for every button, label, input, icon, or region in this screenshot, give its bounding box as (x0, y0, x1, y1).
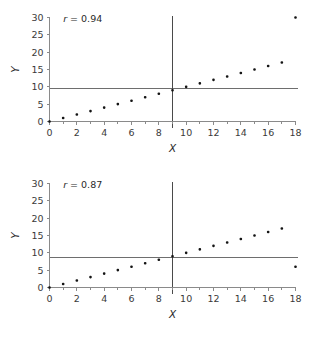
plot-canvas: 051015202530024681012141618XYr = 0.94 (0, 0, 310, 168)
data-point (240, 238, 243, 241)
y-tick-label: 0 (37, 116, 43, 127)
x-tick-label: 2 (74, 293, 80, 304)
correlation-label: r = 0.87 (63, 179, 102, 190)
y-tick-label: 25 (31, 195, 43, 206)
chart-panel-top: 051015202530024681012141618XYr = 0.94 (0, 0, 310, 168)
data-point (76, 279, 79, 282)
data-point (199, 248, 202, 251)
y-tick-label: 20 (31, 47, 43, 58)
data-point (117, 103, 120, 106)
data-point (48, 286, 51, 289)
plot-canvas: 051015202530024681012141618XYr = 0.87 (0, 166, 310, 334)
y-tick-label: 30 (31, 12, 43, 23)
data-point (212, 79, 215, 82)
y-tick-label: 10 (31, 81, 43, 92)
data-point (294, 16, 297, 19)
x-tick-label: 16 (262, 127, 274, 138)
data-point (226, 75, 229, 78)
data-point (76, 113, 79, 116)
data-point (103, 106, 106, 109)
y-tick-label: 0 (37, 282, 43, 293)
x-tick-label: 18 (289, 293, 301, 304)
data-point (185, 252, 188, 255)
data-point (117, 269, 120, 272)
x-axis-title: X (168, 308, 177, 320)
correlation-label: r = 0.94 (63, 13, 102, 24)
data-point (62, 283, 65, 286)
x-tick-label: 6 (128, 293, 134, 304)
y-tick-label: 5 (37, 99, 43, 110)
x-tick-label: 14 (235, 127, 247, 138)
data-point (253, 68, 256, 71)
data-point (48, 120, 51, 123)
data-point (281, 227, 284, 230)
x-tick-label: 8 (156, 293, 162, 304)
y-tick-label: 15 (31, 230, 43, 241)
data-point (171, 89, 174, 92)
data-point (130, 99, 133, 102)
y-tick-label: 25 (31, 29, 43, 40)
data-point (185, 86, 188, 89)
x-tick-label: 4 (101, 127, 107, 138)
x-tick-label: 14 (235, 293, 247, 304)
x-tick-label: 10 (180, 293, 192, 304)
data-point (253, 234, 256, 237)
data-point (240, 72, 243, 75)
x-tick-label: 16 (262, 293, 274, 304)
x-tick-label: 8 (156, 127, 162, 138)
data-point (281, 61, 284, 64)
x-tick-label: 4 (101, 293, 107, 304)
data-point (171, 255, 174, 258)
scatter-plot-figure: 051015202530024681012141618XYr = 0.94 05… (0, 0, 310, 337)
y-axis-title: Y (9, 231, 21, 239)
chart-panel-bottom: 051015202530024681012141618XYr = 0.87 (0, 166, 310, 334)
x-tick-label: 18 (289, 127, 301, 138)
y-axis-title: Y (9, 65, 21, 73)
data-point (89, 110, 92, 113)
data-point (226, 241, 229, 244)
data-point (212, 245, 215, 248)
y-tick-label: 10 (31, 247, 43, 258)
y-tick-label: 5 (37, 265, 43, 276)
x-axis-title: X (168, 142, 177, 154)
x-tick-label: 0 (46, 127, 52, 138)
data-point (144, 96, 147, 99)
data-point (158, 92, 161, 95)
data-point (89, 276, 92, 279)
data-point (144, 262, 147, 265)
data-point (267, 231, 270, 234)
y-tick-label: 20 (31, 213, 43, 224)
x-tick-label: 10 (180, 127, 192, 138)
data-point (103, 272, 106, 275)
x-tick-label: 12 (207, 293, 219, 304)
data-point (267, 65, 270, 68)
y-tick-label: 15 (31, 64, 43, 75)
x-tick-label: 0 (46, 293, 52, 304)
y-tick-label: 30 (31, 178, 43, 189)
data-point (62, 117, 65, 120)
x-tick-label: 12 (207, 127, 219, 138)
data-point (158, 258, 161, 261)
x-tick-label: 2 (74, 127, 80, 138)
data-point (294, 265, 297, 268)
x-tick-label: 6 (128, 127, 134, 138)
data-point (199, 82, 202, 85)
data-point (130, 265, 133, 268)
